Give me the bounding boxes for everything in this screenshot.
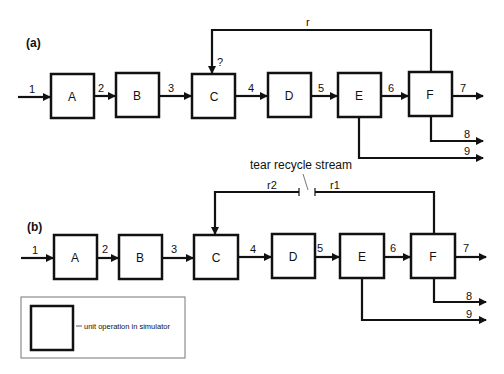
panel-b-label: (b) [27, 220, 42, 234]
unit-d-label: D [289, 250, 298, 264]
unit-b-label: B [133, 89, 141, 103]
unit-f-label: F [426, 88, 433, 102]
legend-text: unit operation in simulator [84, 322, 170, 331]
panel-a: (a) A B C D E F [18, 16, 483, 158]
stream-5-label: 5 [317, 242, 323, 254]
unit-c-label: C [212, 251, 221, 265]
stream-2-label: 2 [98, 82, 104, 94]
tear-recycle-stream-label: tear recycle stream [250, 158, 352, 172]
recycle-stream-r [212, 30, 431, 73]
unit-b-label: B [136, 251, 144, 265]
stream-9-label: 9 [464, 145, 470, 157]
stream-6-label: 6 [388, 82, 394, 94]
tear-pointer-line [303, 174, 308, 190]
stream-3-label: 3 [168, 82, 174, 94]
stream-4-label: 4 [250, 243, 256, 255]
legend-unit-box-icon [31, 306, 73, 350]
unit-e-label: E [358, 250, 366, 264]
panel-a-label: (a) [26, 36, 41, 50]
stream-8-label: 8 [464, 128, 470, 140]
recycle-label-r2: r2 [267, 179, 277, 191]
stream-7-label: 7 [463, 242, 469, 254]
stream-9-label: 9 [466, 308, 472, 320]
recycle-label-r1: r1 [330, 179, 340, 191]
recycle-stream-r2 [215, 192, 299, 234]
stream-6-label: 6 [390, 242, 396, 254]
recycle-stream-r1 [315, 192, 434, 234]
unit-a-label: A [71, 251, 79, 265]
stream-8-label: 8 [466, 290, 472, 302]
stream-8-arrow [431, 117, 483, 141]
stream-3-label: 3 [171, 243, 177, 255]
tear-marker [299, 188, 315, 196]
unknown-marker: ? [217, 56, 223, 68]
unit-e-label: E [355, 89, 363, 103]
stream-5-label: 5 [318, 82, 324, 94]
stream-1-label: 1 [32, 244, 38, 256]
stream-4-label: 4 [248, 82, 254, 94]
stream-7-label: 7 [460, 82, 466, 94]
unit-d-label: D [285, 89, 294, 103]
unit-a-label: A [68, 90, 76, 104]
process-flow-diagram: (a) A B C D E F [0, 0, 504, 374]
recycle-label-r: r [306, 16, 310, 28]
unit-f-label: F [429, 250, 436, 264]
unit-c-label: C [210, 90, 219, 104]
panel-b: (b) A B C D E F [21, 158, 486, 320]
stream-8-arrow [434, 278, 486, 302]
stream-2-label: 2 [102, 243, 108, 255]
stream-1-label: 1 [29, 83, 35, 95]
legend: unit operation in simulator [21, 297, 185, 358]
